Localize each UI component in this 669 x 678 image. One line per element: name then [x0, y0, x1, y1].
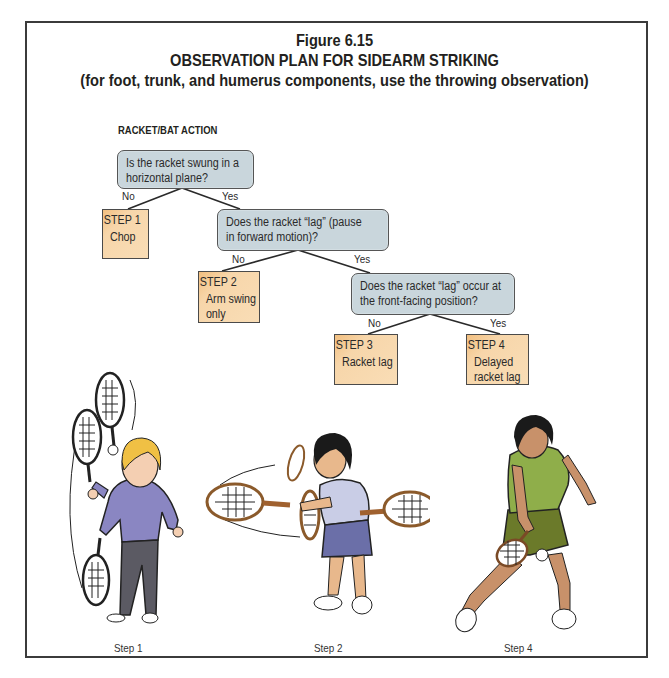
step-box-3: STEP 3 Racket lag — [334, 334, 398, 385]
branch-label-yes: Yes — [490, 317, 506, 329]
question-text: in forward motion)? — [226, 230, 318, 245]
ball-icon — [536, 549, 548, 561]
illustration-step-2 — [200, 425, 430, 620]
step-text: racket lag — [467, 370, 519, 385]
step-text: Chop — [103, 228, 142, 245]
branch-label-no: No — [122, 190, 135, 202]
racket-icon — [301, 491, 319, 539]
figure-subtitle: (for foot, trunk, and humerus components… — [47, 71, 622, 91]
question-box-q1: Is the racket swung in a horizontal plan… — [117, 150, 254, 189]
step-text: Delayed — [467, 353, 519, 370]
step-header: STEP 4 — [467, 335, 519, 353]
step-header: STEP 2 — [199, 272, 251, 290]
step-text: Racket lag — [335, 353, 388, 370]
illustration-step-4 — [440, 405, 620, 635]
section-label: RACKET/BAT ACTION — [118, 124, 217, 136]
racket-icon — [73, 410, 101, 482]
figure-title: OBSERVATION PLAN FOR SIDEARM STRIKING — [47, 51, 622, 71]
step-box-1: STEP 1 Chop — [102, 209, 149, 259]
step-header: STEP 3 — [335, 335, 388, 353]
branch-label-no: No — [232, 253, 245, 265]
figure-number: Figure 6.15 — [47, 31, 622, 51]
question-text: Does the racket “lag” occur at — [360, 279, 501, 294]
step-header: STEP 1 — [103, 210, 142, 228]
step-text: only — [199, 307, 251, 322]
question-box-q2: Does the racket “lag” (pause in forward … — [217, 209, 389, 251]
question-text: horizontal plane? — [126, 171, 208, 186]
step-text: Arm swing — [199, 290, 251, 307]
question-text: Does the racket “lag” (pause — [226, 215, 362, 230]
illustration-step-1 — [30, 370, 210, 630]
step-box-2: STEP 2 Arm swing only — [198, 271, 260, 323]
racket-icon — [285, 444, 308, 482]
racket-icon — [83, 538, 109, 605]
question-text: the front-facing position? — [360, 294, 478, 309]
branch-label-yes: Yes — [354, 253, 370, 265]
question-text: Is the racket swung in a — [126, 156, 239, 171]
branch-label-yes: Yes — [222, 190, 238, 202]
illustration-caption-step-4: Step 4 — [504, 642, 533, 654]
illustration-caption-step-1: Step 1 — [114, 642, 143, 654]
illustration-caption-step-2: Step 2 — [314, 642, 343, 654]
step-box-4: STEP 4 Delayed racket lag — [466, 334, 529, 385]
question-box-q3: Does the racket “lag” occur at the front… — [351, 273, 515, 315]
racket-icon — [360, 492, 430, 526]
branch-label-no: No — [368, 317, 381, 329]
racket-icon — [207, 484, 290, 520]
